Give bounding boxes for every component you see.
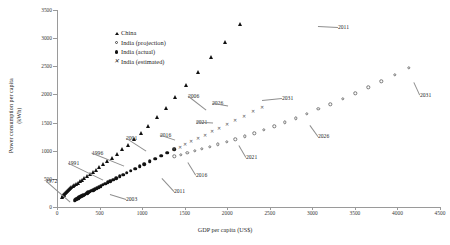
point-annotation: 2016 xyxy=(196,172,207,178)
x-tick-label: 0 xyxy=(37,210,77,216)
data-point xyxy=(317,107,320,110)
point-annotation: 2021 xyxy=(246,154,257,160)
data-point: ✕ xyxy=(225,121,230,126)
data-point xyxy=(262,128,265,131)
x-tick-label: 4000 xyxy=(377,210,417,216)
y-axis-title: Power consumption per capita (kWh) xyxy=(7,51,23,181)
x-tick-label: 2500 xyxy=(250,210,290,216)
data-point xyxy=(126,143,130,147)
data-point xyxy=(146,124,150,128)
data-point xyxy=(216,143,219,146)
data-point: ✕ xyxy=(189,139,194,144)
legend-label-india-actual: India (actual) xyxy=(121,48,155,55)
data-point xyxy=(208,145,211,148)
legend-label-india-estimated: India (estimated) xyxy=(121,58,164,65)
data-point xyxy=(283,121,286,124)
open-circle-icon xyxy=(112,37,121,47)
data-point xyxy=(305,112,308,115)
x-tick-label: 2000 xyxy=(207,210,247,216)
data-point xyxy=(223,40,227,44)
data-point xyxy=(166,151,170,155)
data-point: ✕ xyxy=(202,132,207,137)
y-tick-label: 2500 xyxy=(0,63,52,69)
data-point xyxy=(115,152,119,156)
data-point xyxy=(133,167,137,171)
data-point: ✕ xyxy=(259,104,264,109)
triangle-icon xyxy=(112,28,121,38)
point-annotation: 2031 xyxy=(282,95,293,101)
y-tick xyxy=(53,66,57,67)
legend: China India (projection) India (actual) … xyxy=(112,28,166,66)
data-point xyxy=(148,160,152,164)
point-annotation: 2011 xyxy=(338,24,349,30)
filled-circle-icon xyxy=(112,47,121,57)
data-point: ✕ xyxy=(217,125,222,130)
plot-area: ✕✕✕✕✕✕✕✕✕✕✕✕✕ xyxy=(0,0,450,245)
data-point: ✕ xyxy=(183,141,188,146)
data-point xyxy=(209,55,213,59)
data-point xyxy=(129,169,133,173)
data-point: ✕ xyxy=(250,109,255,114)
scatter-chart: ✕✕✕✕✕✕✕✕✕✕✕✕✕ Power consumption per capi… xyxy=(0,0,450,245)
data-point xyxy=(179,153,182,156)
data-point xyxy=(243,135,246,138)
data-point xyxy=(252,131,255,134)
data-point: ✕ xyxy=(233,117,238,122)
x-axis-title: GDP per capita (US$) xyxy=(0,226,450,233)
data-point xyxy=(172,155,175,158)
data-point xyxy=(138,165,142,169)
x-tick-label: 3500 xyxy=(335,210,375,216)
data-point xyxy=(159,154,163,158)
point-annotation: 2003 xyxy=(126,196,137,202)
x-marker-icon: ✕ xyxy=(112,56,121,67)
x-tick-label: 500 xyxy=(80,210,120,216)
y-tick xyxy=(53,10,57,11)
y-tick-label: 2000 xyxy=(0,91,52,97)
y-tick xyxy=(53,123,57,124)
data-point xyxy=(341,97,344,100)
data-point: ✕ xyxy=(172,147,177,152)
y-tick-label: 3500 xyxy=(0,7,52,13)
y-tick-label: 1500 xyxy=(0,120,52,126)
x-tick-label: 3000 xyxy=(292,210,332,216)
legend-label-china: China xyxy=(121,29,136,36)
y-tick xyxy=(53,38,57,39)
data-point xyxy=(155,115,159,119)
data-point xyxy=(393,73,396,76)
y-tick-label: 1000 xyxy=(0,148,52,154)
y-tick-label: 3000 xyxy=(0,35,52,41)
data-point xyxy=(366,86,369,89)
data-point: ✕ xyxy=(209,129,214,134)
data-point xyxy=(273,124,276,127)
data-point xyxy=(173,95,177,99)
data-point xyxy=(193,149,196,152)
data-point xyxy=(294,116,297,119)
legend-label-india-projection: India (projection) xyxy=(121,39,166,46)
data-point: ✕ xyxy=(177,144,182,149)
data-point xyxy=(380,80,383,83)
x-tick-label: 4500 xyxy=(420,210,450,216)
data-point xyxy=(200,147,203,150)
x-tick-label: 1500 xyxy=(165,210,205,216)
data-point xyxy=(225,140,228,143)
data-point xyxy=(407,66,410,69)
legend-item-india-estimated: ✕India (estimated) xyxy=(112,57,166,67)
point-annotation: 2031 xyxy=(420,92,431,98)
x-tick-label: 1000 xyxy=(122,210,162,216)
y-tick xyxy=(53,94,57,95)
data-point xyxy=(354,92,357,95)
data-point xyxy=(238,22,242,26)
data-point xyxy=(164,106,168,110)
data-point xyxy=(329,102,332,105)
y-tick-label: 500 xyxy=(0,176,52,182)
data-point xyxy=(139,131,143,135)
data-point xyxy=(110,156,114,160)
data-point xyxy=(186,151,189,154)
data-point: ✕ xyxy=(241,113,246,118)
x-axis-line xyxy=(57,207,440,208)
data-point xyxy=(184,83,188,87)
y-tick xyxy=(53,151,57,152)
point-annotation: 2026 xyxy=(318,133,329,139)
point-annotation: 2011 xyxy=(174,188,185,194)
data-point xyxy=(153,157,157,161)
